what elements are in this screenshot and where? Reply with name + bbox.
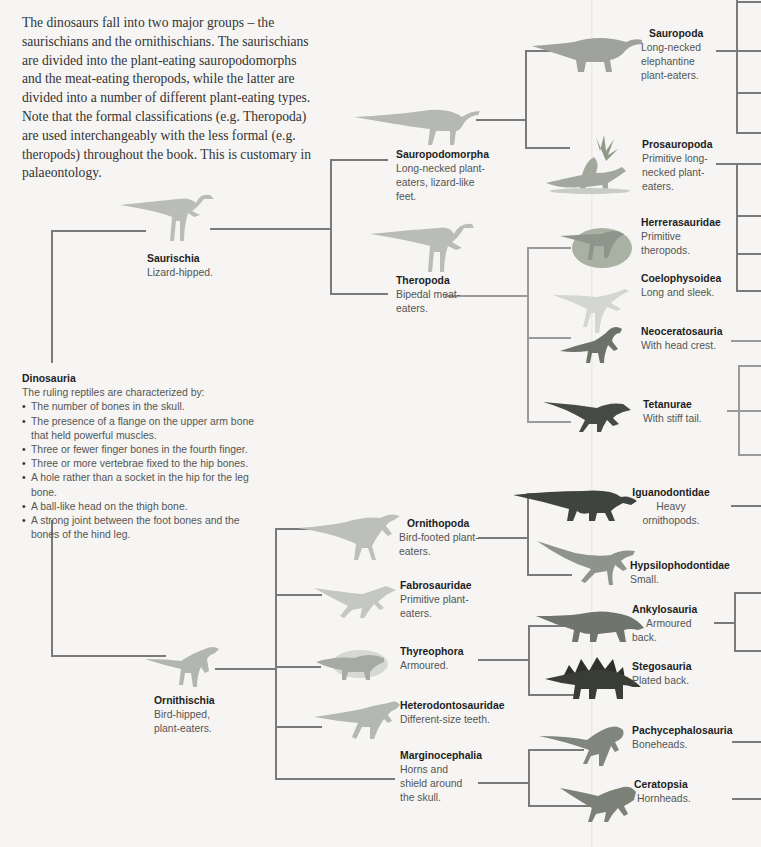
prosauropoda-illustration: [542, 133, 637, 195]
node-title: Iguanodontidae: [630, 486, 712, 500]
node-desc: Bird-footed plant-eaters.: [399, 531, 479, 559]
node-ornithopoda[interactable]: Ornithopoda Bird-footed plant-eaters.: [399, 517, 479, 559]
node-ceratopsia[interactable]: Ceratopsia Hornheads.: [634, 778, 691, 806]
node-title: Ornithischia: [154, 694, 234, 708]
node-fabrosauridae[interactable]: Fabrosauridae Primitive plant-eaters.: [400, 579, 470, 621]
node-heterodontosauridae[interactable]: Heterodontosauridae Different-size teeth…: [400, 699, 505, 727]
node-saurischia[interactable]: Saurischia Lizard-hipped.: [147, 252, 213, 280]
node-title: Hypsilophodontidae: [630, 559, 730, 573]
node-dinosauria[interactable]: Dinosauria The ruling reptiles are chara…: [22, 372, 262, 542]
node-pachycephalosauria[interactable]: Pachycephalosauria Boneheads.: [632, 724, 733, 752]
node-title: Stegosauria: [632, 660, 691, 674]
node-title: Coelophysoidea: [641, 272, 721, 286]
trait-item: The presence of a flange on the upper ar…: [22, 415, 262, 443]
stegosauria-illustration: [543, 653, 643, 701]
node-title: Heterodontosauridae: [400, 699, 505, 713]
node-desc: Armoured back.: [632, 617, 702, 645]
thyreophora-illustration: [314, 648, 394, 682]
trait-item: A hole rather than a socket in the hip f…: [22, 471, 262, 499]
trait-item: Three or more vertebrae fixed to the hip…: [22, 457, 262, 471]
ornithischia-illustration: [143, 643, 223, 689]
fabrosauridae-illustration: [312, 582, 402, 622]
node-prosauropoda[interactable]: Prosauropoda Primitive long-necked plant…: [642, 138, 714, 194]
node-title: Sauropoda: [641, 27, 721, 41]
trait-item: A strong joint between the foot bones an…: [22, 514, 262, 542]
node-title: Ankylosauria: [632, 603, 702, 617]
node-title: Pachycephalosauria: [632, 724, 733, 738]
node-title: Theropoda: [396, 274, 466, 288]
node-theropoda[interactable]: Theropoda Bipedal meat-eaters.: [396, 274, 466, 316]
herrerasauridae-illustration: [558, 218, 638, 270]
ornithopoda-illustration: [296, 510, 406, 562]
node-stegosauria[interactable]: Stegosauria Plated back.: [632, 660, 691, 688]
node-title: Ornithopoda: [399, 517, 479, 531]
node-desc: Horns and shield around the skull.: [400, 763, 472, 805]
node-desc: Lizard-hipped.: [147, 266, 213, 280]
node-desc: Long and sleek.: [641, 286, 721, 300]
trait-item: A ball-like head on the thigh bone.: [22, 500, 262, 514]
dinosauria-title: Dinosauria: [22, 372, 262, 386]
intro-paragraph: The dinosaurs fall into two major groups…: [22, 14, 312, 183]
node-title: Saurischia: [147, 252, 213, 266]
iguanodontidae-illustration: [511, 485, 639, 523]
node-ankylosauria[interactable]: Ankylosauria Armoured back.: [632, 603, 702, 645]
node-desc: Primitive theropods.: [641, 230, 713, 258]
theropoda-illustration: [368, 220, 478, 274]
node-desc: Different-size teeth.: [400, 713, 505, 727]
hypsilophodontidae-illustration: [535, 539, 640, 587]
node-coelophysoidea[interactable]: Coelophysoidea Long and sleek.: [641, 272, 721, 300]
node-title: Ceratopsia: [634, 778, 691, 792]
node-desc: Hornheads.: [634, 792, 691, 806]
ceratopsia-illustration: [558, 778, 638, 824]
node-title: Neoceratosauria: [641, 325, 722, 339]
node-desc: Heavy ornithopods.: [630, 500, 712, 528]
heterodontosauridae-illustration: [312, 699, 402, 741]
node-desc: Long-necked plant-eaters, lizard-like fe…: [396, 162, 496, 204]
node-desc: Primitive long-necked plant-eaters.: [642, 152, 714, 194]
node-desc: With stiff tail.: [643, 412, 702, 426]
dinosauria-traits: The number of bones in the skull. The pr…: [22, 400, 262, 542]
node-neoceratosauria[interactable]: Neoceratosauria With head crest.: [641, 325, 722, 353]
node-desc: Plated back.: [632, 674, 691, 688]
node-sauropodomorpha[interactable]: Sauropodomorpha Long-necked plant-eaters…: [396, 148, 496, 204]
node-ornithischia[interactable]: Ornithischia Bird-hipped, plant-eaters.: [154, 694, 234, 736]
node-desc: Bipedal meat-eaters.: [396, 288, 466, 316]
node-herrerasauridae[interactable]: Herrerasauridae Primitive theropods.: [641, 216, 713, 258]
tetanurae-illustration: [541, 398, 636, 434]
node-hypsilophodontidae[interactable]: Hypsilophodontidae Small.: [630, 559, 730, 587]
trait-item: The number of bones in the skull.: [22, 400, 262, 414]
saurischia-illustration: [118, 193, 218, 245]
node-marginocephalia[interactable]: Marginocephalia Horns and shield around …: [400, 749, 472, 805]
node-thyreophora[interactable]: Thyreophora Armoured.: [400, 645, 464, 673]
node-title: Sauropodomorpha: [396, 148, 496, 162]
node-desc: Small.: [630, 573, 730, 587]
node-tetanurae[interactable]: Tetanurae With stiff tail.: [643, 398, 702, 426]
node-title: Thyreophora: [400, 645, 464, 659]
node-desc: With head crest.: [641, 339, 722, 353]
node-sauropoda[interactable]: Sauropoda Long-necked elephantine plant-…: [641, 27, 721, 83]
dinosauria-subtitle: The ruling reptiles are characterized by…: [22, 387, 205, 398]
node-desc: Primitive plant-eaters.: [400, 593, 470, 621]
node-desc: Boneheads.: [632, 738, 733, 752]
node-desc: Bird-hipped, plant-eaters.: [154, 708, 234, 736]
node-title: Herrerasauridae: [641, 216, 713, 230]
node-iguanodontidae[interactable]: Iguanodontidae Heavy ornithopods.: [630, 486, 712, 528]
node-desc: Long-necked elephantine plant-eaters.: [641, 41, 721, 83]
node-title: Tetanurae: [643, 398, 702, 412]
node-title: Prosauropoda: [642, 138, 714, 152]
trait-item: Three or fewer finger bones in the fourt…: [22, 443, 262, 457]
sauropoda-illustration: [530, 34, 645, 74]
sauropodomorpha-illustration: [352, 107, 482, 147]
neoceratosauria-illustration: [558, 325, 628, 365]
node-title: Fabrosauridae: [400, 579, 470, 593]
node-desc: Armoured.: [400, 659, 464, 673]
node-title: Marginocephalia: [400, 749, 472, 763]
ankylosauria-illustration: [534, 608, 644, 644]
pachycephalosauria-illustration: [537, 722, 629, 768]
